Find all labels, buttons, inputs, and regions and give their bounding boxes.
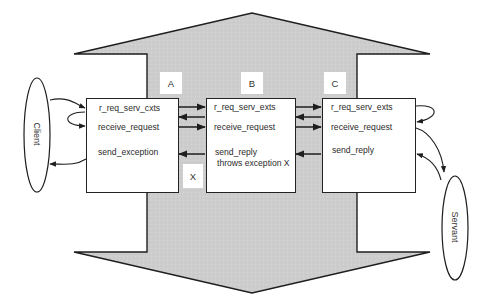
interceptor-box-b: r_req_serv_exts receive_request send_rep… [206, 98, 296, 193]
interceptor-box-c: r_req_serv_exts receive_request send_rep… [322, 98, 416, 193]
tag-b: B [241, 72, 263, 94]
box-b-line-3: send_reply [215, 147, 257, 157]
interceptor-flow-diagram: Client Servant A B C X r_req_serv_cxts r… [0, 0, 489, 307]
tag-a: A [160, 72, 182, 94]
client-arrows [50, 99, 86, 164]
box-a-line-1: r_req_serv_cxts [99, 103, 160, 113]
box-c-line-1: r_req_serv_exts [331, 102, 393, 112]
box-c-line-2: receive_request [331, 122, 392, 132]
interceptor-box-a: r_req_serv_cxts receive_request send_exc… [86, 98, 179, 193]
tag-c: C [324, 72, 346, 94]
box-b-line-1: r_req_serv_exts [214, 102, 276, 112]
tag-exception-x: X [183, 164, 203, 188]
box-a-line-3: send_exception [98, 147, 158, 157]
client-label: Client [32, 116, 42, 152]
box-a-line-2: receive_request [98, 122, 159, 132]
box-b-line-2: receive_request [214, 122, 275, 132]
servant-arrows [416, 106, 444, 180]
box-b-line-4: throws exception X [217, 158, 290, 168]
servant-label: Servant [450, 206, 460, 248]
box-c-line-3: send_reply [332, 145, 374, 155]
